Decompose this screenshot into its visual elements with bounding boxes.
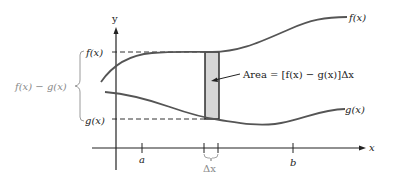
f-curve-label: f(x) bbox=[348, 12, 366, 23]
area-strip bbox=[205, 52, 219, 119]
y-axis-label: y bbox=[111, 13, 118, 24]
y-axis-arrow-icon bbox=[114, 27, 119, 34]
g-curve bbox=[105, 92, 345, 125]
x-axis-arrow-icon bbox=[359, 146, 366, 151]
tick-a-label: a bbox=[139, 154, 145, 165]
tick-b-label: b bbox=[290, 157, 296, 168]
difference-label: f(x) − g(x) bbox=[14, 81, 67, 92]
x-axis-label: x bbox=[369, 142, 375, 153]
f-value-label: f(x) bbox=[85, 47, 103, 58]
area-between-curves-diagram: y x a Δx b f(x) g(x) f(x) g(x) f(x) − g(… bbox=[0, 0, 396, 180]
difference-brace-icon bbox=[75, 51, 84, 121]
delta-x-brace-icon bbox=[204, 154, 218, 161]
area-formula-label: Area = [f(x) − g(x)]Δx bbox=[242, 69, 354, 80]
delta-x-label: Δx bbox=[203, 163, 216, 174]
g-value-label: g(x) bbox=[85, 115, 105, 126]
g-curve-label: g(x) bbox=[345, 104, 365, 115]
